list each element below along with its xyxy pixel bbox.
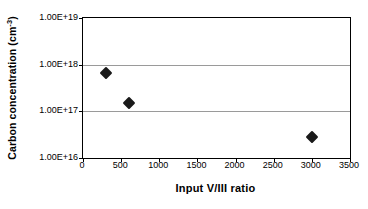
y-axis-title-main: Carbon concentration (cm: [6, 26, 18, 159]
y-axis-tick-label: 1.00E+17: [20, 105, 78, 115]
y-axis-tick-labels: 1.00E+191.00E+181.00E+171.00E+16: [20, 0, 78, 209]
x-axis-tick-label: 2000: [225, 160, 245, 171]
x-axis-tick-label: 1500: [186, 160, 206, 171]
gridline-horizontal: [83, 65, 350, 66]
y-axis-tick-mark: [79, 65, 83, 66]
x-axis-tick-label: 0: [79, 160, 84, 171]
data-point-marker: [305, 131, 318, 144]
x-axis-tick-label: 3500: [339, 160, 359, 171]
x-axis-tick-label: 500: [113, 160, 128, 171]
x-axis-tick-label: 2500: [263, 160, 283, 171]
y-axis-tick-label: 1.00E+18: [20, 59, 78, 69]
data-point-marker: [122, 97, 135, 110]
y-axis-title: Carbon concentration (cm-3): [6, 16, 18, 159]
y-axis-tick-mark: [79, 111, 83, 112]
x-axis-tick-label: 1000: [148, 160, 168, 171]
x-axis-tick-labels: 0500100015002000250030003500: [0, 160, 368, 174]
y-axis-title-superscript: -3: [5, 19, 14, 26]
y-axis-title-tail: ): [6, 16, 18, 20]
chart-figure: Carbon concentration (cm-3) 1.00E+191.00…: [0, 0, 368, 209]
x-axis-title: Input V/III ratio: [82, 182, 349, 194]
plot-area: [82, 17, 351, 159]
y-axis-tick-mark: [79, 18, 83, 19]
gridline-horizontal: [83, 111, 350, 112]
data-point-marker: [100, 67, 113, 80]
x-axis-tick-label: 3000: [301, 160, 321, 171]
y-axis-tick-label: 1.00E+19: [20, 12, 78, 22]
